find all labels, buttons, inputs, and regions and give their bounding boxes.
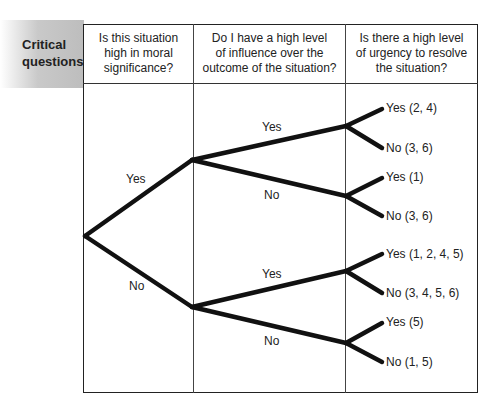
leaf-label: No (3, 6) xyxy=(386,141,433,155)
leaf-label: No (1, 5) xyxy=(386,355,433,369)
branch-label-yes: Yes xyxy=(262,267,282,281)
leaf-label: Yes (2, 4) xyxy=(386,101,437,115)
branch-label-no: No xyxy=(129,279,144,293)
leaf-label: No (3, 4, 5, 6) xyxy=(386,286,459,300)
branch-label-no: No xyxy=(264,334,279,348)
branch-label-no: No xyxy=(264,188,279,202)
leaf-label: Yes (1) xyxy=(386,170,424,184)
decision-tree-lines xyxy=(0,0,500,413)
leaf-label: Yes (5) xyxy=(386,315,424,329)
branch-label-yes: Yes xyxy=(262,120,282,134)
leaf-label: No (3, 6) xyxy=(386,209,433,223)
leaf-label: Yes (1, 2, 4, 5) xyxy=(386,247,464,261)
branch-label-yes: Yes xyxy=(126,172,146,186)
